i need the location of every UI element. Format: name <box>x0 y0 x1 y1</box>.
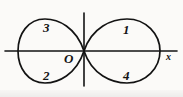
origin-label: O <box>64 52 73 65</box>
region-label-1: 1 <box>123 23 130 36</box>
region-label-2: 2 <box>43 69 50 82</box>
figure-canvas <box>0 0 183 97</box>
lemniscate-figure: 1 3 2 4 O x <box>0 0 183 97</box>
x-axis-label: x <box>166 52 171 62</box>
region-label-4: 4 <box>123 69 130 82</box>
region-label-3: 3 <box>43 21 50 34</box>
